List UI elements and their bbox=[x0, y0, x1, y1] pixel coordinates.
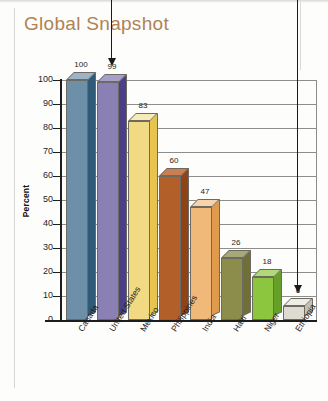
arrow-ethiopia-head bbox=[294, 285, 302, 293]
y-axis-tick-label: 80 bbox=[27, 122, 53, 132]
bar-united-states bbox=[97, 82, 119, 320]
bar-side bbox=[181, 168, 189, 316]
y-axis-tick-label: 30 bbox=[27, 242, 53, 252]
bar-face bbox=[97, 82, 119, 320]
y-axis-label: Percent bbox=[21, 171, 31, 231]
y-axis-tick-label: 100 bbox=[27, 74, 53, 84]
bar-haiti bbox=[221, 258, 243, 320]
bar-value-label: 83 bbox=[128, 101, 158, 110]
arrow-united-states-line bbox=[111, 0, 112, 58]
y-axis-tick-label: 70 bbox=[27, 146, 53, 156]
bar-face bbox=[66, 80, 88, 320]
y-axis-line bbox=[60, 79, 62, 322]
bar-value-label: 18 bbox=[252, 257, 282, 266]
bar-side bbox=[212, 199, 220, 316]
y-axis-tick-label: 0 bbox=[27, 314, 53, 324]
arrow-ethiopia-line bbox=[297, 0, 298, 285]
bar-side bbox=[119, 74, 127, 316]
y-axis-tick-label: 90 bbox=[27, 98, 53, 108]
scanned-page: Global Snapshot 1009080706050403020100 P… bbox=[0, 0, 328, 401]
bar-chart: 1009080706050403020100 Percent 100998360… bbox=[0, 0, 328, 401]
bar-value-label: 60 bbox=[159, 156, 189, 165]
bar-side bbox=[243, 250, 251, 316]
bar-side bbox=[150, 113, 158, 316]
plot-right-border bbox=[316, 80, 317, 321]
arrow-united-states-head bbox=[108, 58, 116, 66]
bar-side bbox=[88, 72, 96, 316]
bar-philippines bbox=[159, 176, 181, 320]
bar-face bbox=[159, 176, 181, 320]
bar-canada bbox=[66, 80, 88, 320]
bar-face bbox=[221, 258, 243, 320]
bar-value-label: 47 bbox=[190, 187, 220, 196]
y-axis-tick-label: 10 bbox=[27, 290, 53, 300]
bar-value-label: 26 bbox=[221, 238, 251, 247]
bar-side bbox=[274, 269, 282, 316]
y-axis-tick-label: 20 bbox=[27, 266, 53, 276]
bar-value-label: 100 bbox=[66, 60, 96, 69]
